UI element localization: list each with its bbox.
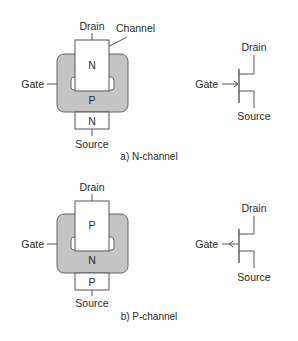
n-gate-region-label: P (88, 94, 95, 106)
n-channel-symbol: Drain Source Gate (195, 41, 271, 122)
p-channel-symbol: Drain Source Gate (195, 202, 271, 283)
n-physical-source-label: Source (75, 138, 108, 150)
n-symbol-source-label: Source (237, 110, 270, 122)
n-channel-physical: Drain Channel N P N Source Gate (21, 20, 155, 150)
n-channel-label: Channel (116, 22, 155, 34)
n-symbol-gate-label: Gate (195, 78, 218, 90)
p-symbol-source-label: Source (237, 271, 270, 283)
p-drain-region-label: P (88, 219, 95, 231)
p-physical-source-label: Source (75, 297, 108, 309)
n-drain-region-label: N (88, 59, 96, 71)
p-physical-gate-label: Gate (21, 238, 44, 250)
p-symbol-gate-label: Gate (195, 238, 218, 250)
n-physical-drain-label: Drain (79, 20, 104, 32)
p-symbol-drain-label: Drain (241, 202, 266, 214)
p-channel-physical: Drain P N P Source Gate (21, 181, 128, 309)
p-source-region-label: P (88, 276, 95, 288)
n-source-region-label: N (88, 115, 96, 127)
p-gate-region-label: N (88, 254, 96, 266)
jfet-diagram: Drain Channel N P N Source Gate Drain So… (0, 0, 298, 341)
p-channel-caption: b) P-channel (121, 311, 178, 322)
n-symbol-drain-label: Drain (241, 41, 266, 53)
p-physical-drain-label: Drain (79, 181, 104, 193)
n-physical-gate-label: Gate (21, 78, 44, 90)
n-channel-caption: a) N-channel (120, 151, 177, 162)
